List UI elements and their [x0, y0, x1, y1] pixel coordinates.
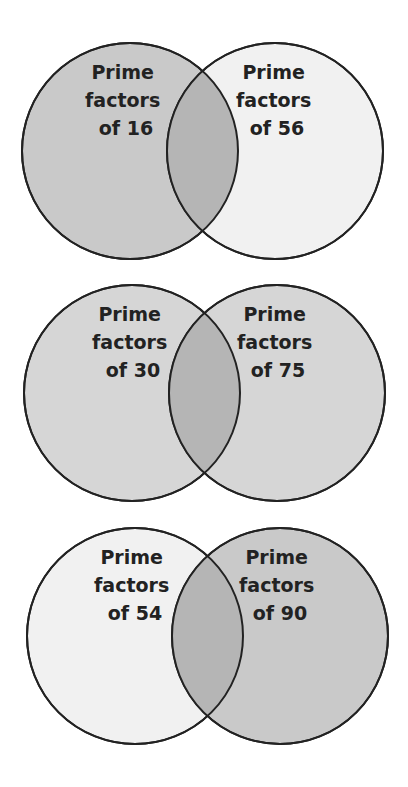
label-line: of 75 [251, 359, 305, 381]
label-line: factors [239, 574, 314, 596]
label-line: Prime [100, 546, 163, 568]
label-line: of 16 [99, 117, 153, 139]
label-line: Prime [91, 61, 154, 83]
label-line: Prime [242, 61, 305, 83]
label-line: Prime [245, 546, 308, 568]
label-line: of 56 [250, 117, 304, 139]
label-line: factors [85, 89, 160, 111]
label-line: Prime [98, 303, 161, 325]
label-line: factors [94, 574, 169, 596]
label-line: Prime [243, 303, 306, 325]
venn-diagram-3: Prime factors of 54 Prime factors of 90 [27, 528, 388, 744]
label-line: of 30 [106, 359, 160, 381]
venn-diagram-1: Prime factors of 16 Prime factors of 56 [22, 43, 383, 259]
venn-diagram-2: Prime factors of 30 Prime factors of 75 [24, 285, 385, 501]
label-line: of 54 [108, 602, 162, 624]
label-line: factors [92, 331, 167, 353]
venn-diagrams: Prime factors of 16 Prime factors of 56 … [0, 0, 408, 787]
label-line: factors [237, 331, 312, 353]
label-line: of 90 [253, 602, 307, 624]
label-line: factors [236, 89, 311, 111]
